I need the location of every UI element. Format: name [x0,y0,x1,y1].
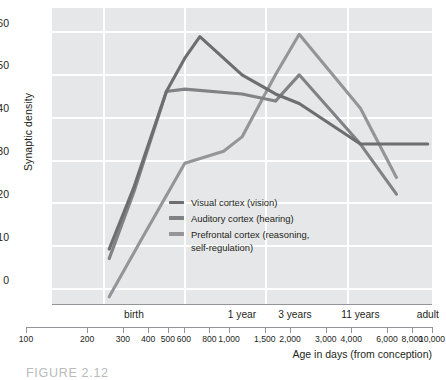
numeric-axis-tick [387,327,388,333]
y-tick-label: 60 [0,18,9,29]
chart-series-svg [52,8,432,304]
y-tick-label: 50 [0,60,9,71]
numeric-axis-tick-label: 1,000 [218,334,240,344]
stage-axis-label: adult [417,309,439,320]
numeric-axis-tick-label: 100 [19,334,33,344]
legend-swatch-icon [169,232,184,235]
stage-axis-label: birth [124,309,144,320]
numeric-axis-tick-label: 2,000 [279,334,301,344]
stage-axis-label: 11 years [341,309,379,320]
numeric-axis-tick [432,327,433,333]
numeric-axis-tick-label: 200 [80,334,94,344]
legend-item-visual-cortex: Visual cortex (vision) [169,196,309,209]
numeric-axis-tick [123,327,124,333]
series-line-prefrontal-cortex [109,34,396,297]
y-tick-label: 0 [0,275,9,286]
numeric-axis-tick [26,327,27,333]
numeric-axis-tick-label: 800 [202,334,216,344]
numeric-axis-tick [265,327,266,333]
numeric-axis-tick-label: 4,000 [340,334,362,344]
chart-legend: Visual cortex (vision) Auditory cortex (… [169,196,309,257]
numeric-axis-tick-label: 500 [161,334,175,344]
numeric-axis-tick [209,327,210,333]
numeric-axis-tick-label: 300 [116,334,130,344]
legend-label: Auditory cortex (hearing) [191,212,294,225]
numeric-axis-tick [148,327,149,333]
numeric-axis-tick [290,327,291,333]
legend-swatch-icon [169,201,184,204]
legend-label: Prefrontal cortex (reasoning, self-regul… [191,228,309,255]
numeric-axis-tick-label: 1,500 [254,334,276,344]
y-tick-label: 10 [0,232,9,243]
numeric-axis-tick-label: 400 [141,334,155,344]
numeric-axis-tick [168,327,169,333]
y-tick-label: 30 [0,146,9,157]
numeric-axis-tick-label: 6,000 [376,334,398,344]
figure-caption: FIGURE 2.12 [26,366,109,380]
stage-axis-label: 1 year [228,309,256,320]
y-axis-title: Synaptic density [22,57,34,207]
y-tick-label: 20 [0,189,9,200]
legend-swatch-icon [169,216,184,219]
numeric-axis-tick [326,327,327,333]
legend-item-auditory-cortex: Auditory cortex (hearing) [169,212,309,225]
numeric-axis-tick [87,327,88,333]
x-axis-title: Age in days (from conception) [0,348,432,360]
numeric-axis-tick-label: 10,000 [419,334,445,344]
numeric-axis-tick-label: 600 [177,334,191,344]
stage-axis-label: 3 years [278,309,311,320]
numeric-axis-tick [351,327,352,333]
numeric-axis-tick-label: 3,000 [315,334,337,344]
legend-item-prefrontal-cortex: Prefrontal cortex (reasoning, self-regul… [169,228,309,255]
numeric-axis-tick [229,327,230,333]
y-tick-label: 40 [0,103,9,114]
legend-label: Visual cortex (vision) [191,196,277,209]
numeric-axis-tick [412,327,413,333]
stage-axis-line [52,304,432,305]
plot-area [52,8,432,304]
numeric-axis-tick [184,327,185,333]
